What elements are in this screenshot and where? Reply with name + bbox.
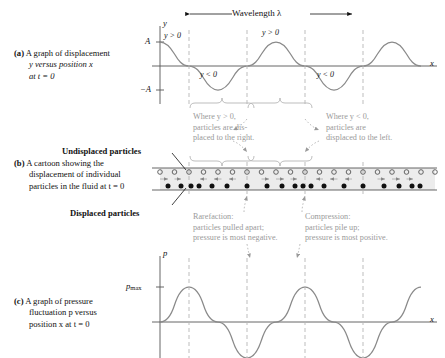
- panel-b-tag: (b): [14, 158, 25, 168]
- region-label-ypos-2: y > 0: [262, 28, 279, 37]
- panel-c-y-axis-label: p: [163, 248, 167, 258]
- left-note-line2: particles are dis-: [193, 123, 247, 132]
- rarefaction-line1: Rarefaction:: [193, 212, 233, 221]
- panel-c-graph: [152, 256, 437, 358]
- panel-a-tick-label-A: A: [145, 36, 150, 46]
- left-note-line3: placed to the right.: [193, 133, 254, 142]
- panel-c-tag: (c): [14, 296, 24, 306]
- panel-a-caption-line1: A graph of displacement: [26, 48, 110, 58]
- right-note-line1: Where y < 0,: [326, 112, 369, 121]
- panel-c-caption: (c) A graph of pressure fluctuation p ve…: [14, 296, 160, 330]
- undisplaced-particles-label: Undisplaced particles: [62, 146, 141, 156]
- panel-a-graph: [152, 26, 437, 104]
- brace-upper-group: [190, 98, 312, 108]
- panel-a-y-axis-label: y: [163, 18, 167, 28]
- region-label-yneg-2: y < 0: [317, 70, 334, 79]
- rarefaction-line3: pressure is most negative.: [193, 233, 278, 242]
- panel-c-x-axis-label: x: [430, 314, 434, 324]
- panel-c-caption-line1: A graph of pressure: [25, 296, 93, 306]
- pmax-subscript: max: [130, 284, 141, 291]
- panel-c-caption-line3: position x at t = 0: [29, 319, 89, 329]
- compression-line1: Compression:: [305, 212, 351, 221]
- panel-a-dashed-lines: [189, 30, 363, 104]
- panel-c-tick-label-pmax: pmax: [126, 281, 142, 291]
- panel-b-caption-line2: displacement of individual: [29, 169, 121, 179]
- compression-note: Compression: particles pile up; pressure…: [305, 212, 413, 244]
- right-note-line3: displaced to the left.: [326, 133, 392, 142]
- panel-a-tag: (a): [14, 48, 24, 58]
- left-note: Where y > 0, particles are dis- placed t…: [193, 112, 265, 144]
- compression-line2: particles pile up;: [305, 223, 360, 232]
- pressure-curve: [160, 287, 421, 358]
- panel-a-caption-line2: y versus position x: [29, 59, 93, 69]
- panel-a-x-axis-label: x: [430, 58, 434, 68]
- wavelength-label: Wavelength λ: [232, 8, 281, 18]
- displaced-particles-label: Displaced particles: [70, 208, 139, 218]
- left-note-line1: Where y > 0,: [193, 112, 236, 121]
- panel-c-dashed-lines: [189, 258, 363, 358]
- compression-line3: pressure is most positive.: [305, 233, 388, 242]
- rarefaction-note: Rarefaction: particles pulled apart; pre…: [193, 212, 298, 244]
- panel-c-caption-line2: fluctuation p versus: [29, 307, 97, 317]
- region-label-yneg-1: y < 0: [200, 70, 217, 79]
- rarefaction-line2: particles pulled apart;: [193, 223, 264, 232]
- brace-lower-group: [190, 156, 312, 166]
- right-note-line2: particles are: [326, 123, 366, 132]
- panel-b-caption-line3: particles in the fluid at t = 0: [29, 181, 124, 191]
- right-note: Where y < 0, particles are displaced to …: [326, 112, 412, 144]
- panel-a-caption-line3: at t = 0: [29, 71, 55, 81]
- panel-a-tick-label-negA: −A: [140, 84, 151, 94]
- panel-b-caption: (b) A cartoon showing the displacement o…: [14, 158, 164, 192]
- panel-a-caption: (a) A graph of displacement y versus pos…: [14, 48, 160, 82]
- region-label-ypos-1: y > 0: [164, 31, 181, 40]
- sound-wave-figure: Wavelength λ (a) A graph of displacement…: [0, 0, 445, 358]
- panel-b-caption-line1: A cartoon showing the: [26, 158, 104, 168]
